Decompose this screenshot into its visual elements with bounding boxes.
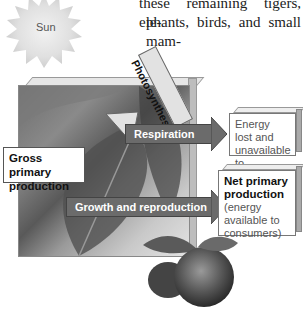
growth-label: Growth and reproduction	[75, 201, 207, 213]
box-top-bevel	[233, 107, 303, 113]
box-top-bevel	[222, 164, 303, 170]
body-text-line-2: phants, birds, and small mam-	[146, 13, 301, 51]
box-side-bevel	[296, 166, 302, 232]
box-side-bevel	[296, 109, 302, 152]
net-box-title: Net primary production	[224, 175, 290, 201]
sun-icon	[4, 0, 84, 72]
respiration-arrow: Respiration	[125, 124, 213, 144]
energy-lost-box-3d: Energy lost and unavailable to consumers	[229, 113, 296, 156]
gross-primary-production-box: Gross primary production	[3, 147, 85, 183]
respiration-label: Respiration	[134, 128, 195, 140]
energy-lost-box: Energy lost and unavailable to consumers	[229, 113, 296, 156]
sun-label: Sun	[36, 21, 56, 33]
growth-arrow: Growth and reproduction	[66, 197, 213, 217]
apple-illustration	[138, 225, 248, 311]
respiration-arrowhead-icon	[211, 117, 227, 151]
